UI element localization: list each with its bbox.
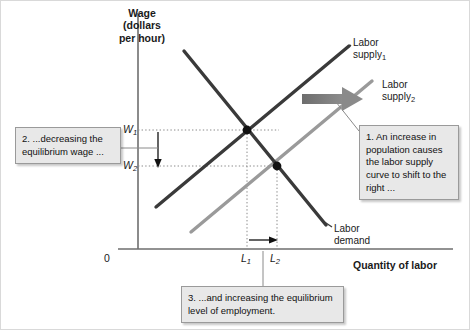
y-axis-title-line1: Wage	[128, 7, 156, 19]
supply-shift-arrow	[302, 87, 363, 111]
y-axis-title-line3: per hour)	[119, 32, 165, 44]
x-tick-l2: L2	[270, 252, 280, 265]
origin-label: 0	[104, 252, 110, 264]
curve-label-labor-supply-1: Laborsupply1	[353, 37, 386, 61]
equilibrium-point-2	[273, 162, 282, 171]
curve-label-demand-line2: demand	[334, 235, 370, 246]
callout-decreasing-wage: 2. ...decreasing the equilibrium wage ..…	[15, 127, 121, 164]
y-tick-w2: W2	[123, 159, 137, 172]
x-tick-l1: L1	[241, 252, 251, 265]
y-axis-title: Wage(dollarsper hour)	[105, 7, 179, 44]
x-tick-l1-base: L	[241, 252, 247, 264]
x-tick-l2-sub: 2	[276, 257, 280, 266]
y-axis-title-line2: (dollars	[123, 19, 161, 31]
employment-increase-arrow	[249, 237, 278, 244]
curve-label-supply2-sub: 2	[411, 95, 415, 104]
curve-label-supply2-line2: supply	[382, 91, 411, 102]
equilibrium-point-1	[243, 126, 252, 135]
x-tick-l2-base: L	[270, 252, 276, 264]
x-tick-l1-sub: 1	[247, 257, 251, 266]
curve-label-demand-line1: Labor	[334, 223, 360, 234]
wage-decrease-arrow	[154, 132, 161, 168]
labor-market-figure: Wage(dollarsper hour) Quantity of labor …	[0, 0, 470, 330]
y-tick-w1: W1	[123, 123, 137, 136]
y-tick-w1-base: W	[123, 123, 133, 135]
curve-label-labor-supply-2: Laborsupply2	[382, 79, 415, 103]
callout-increasing-employment: 3. ...and increasing the equilibrium lev…	[181, 286, 344, 323]
y-tick-w2-sub: 2	[133, 164, 137, 173]
x-axis-title: Quantity of labor	[353, 259, 437, 271]
curve-label-labor-demand: Labordemand	[334, 223, 370, 247]
y-tick-w2-base: W	[123, 159, 133, 171]
curve-label-supply2-line1: Labor	[382, 79, 408, 90]
curve-label-supply1-line1: Labor	[353, 37, 379, 48]
y-tick-w1-sub: 1	[133, 128, 137, 137]
curve-label-supply1-sub: 1	[382, 53, 386, 62]
callout-population-increase: 1. An increase in population causes the …	[359, 125, 459, 200]
curve-label-supply1-line2: supply	[353, 49, 382, 60]
